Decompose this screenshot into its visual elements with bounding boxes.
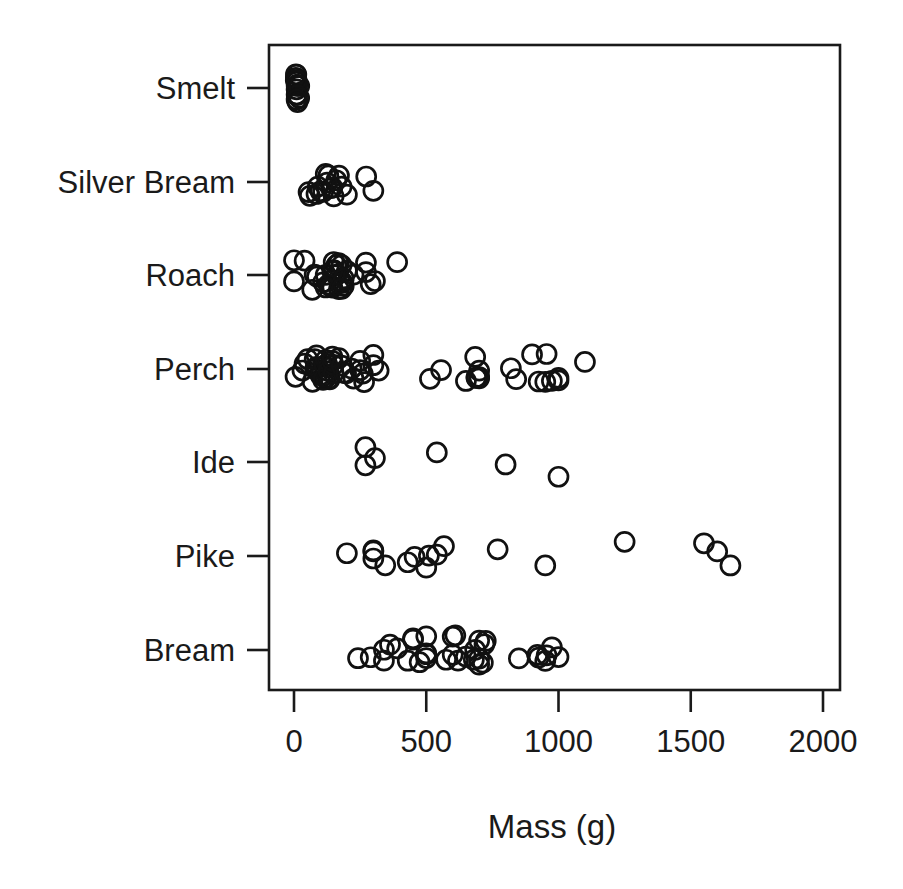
category-label-smelt: Smelt	[156, 71, 236, 106]
x-tick-label-500: 500	[400, 724, 452, 759]
category-label-silver-bream: Silver Bream	[58, 165, 235, 200]
x-tick-label-1500: 1500	[656, 724, 725, 759]
category-label-ide: Ide	[192, 445, 235, 480]
category-label-pike: Pike	[175, 539, 235, 574]
x-tick-label-2000: 2000	[789, 724, 858, 759]
strip-chart-svg: SmeltSilver BreamRoachPerchIdePikeBream …	[0, 0, 903, 889]
category-label-perch: Perch	[154, 352, 235, 387]
category-label-roach: Roach	[145, 258, 235, 293]
x-tick-label-0: 0	[285, 724, 302, 759]
x-tick-label-1000: 1000	[524, 724, 593, 759]
strip-chart-container: SmeltSilver BreamRoachPerchIdePikeBream …	[0, 0, 903, 889]
category-label-bream: Bream	[144, 633, 235, 668]
x-axis-title: Mass (g)	[488, 808, 616, 845]
